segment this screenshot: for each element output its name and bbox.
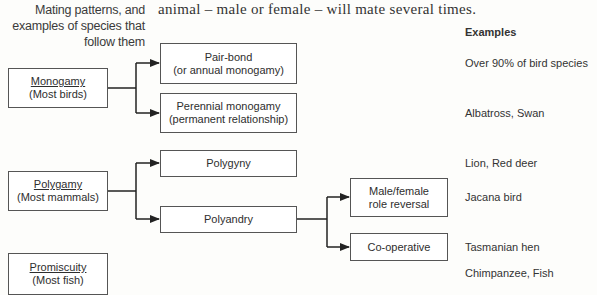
example-text: Lion, Red deer [465,157,537,169]
subtype-line: Co-operative [368,241,431,254]
category-title: Polygamy [34,178,82,191]
subtype-polyandry: Polyandry [160,206,297,233]
subtype-line: role reversal [369,198,430,211]
category-subtitle: (Most fish) [32,274,83,287]
example-text: Chimpanzee, Fish [465,267,554,279]
subtype-role-reversal: Male/female role reversal [350,178,448,217]
example-text: Jacana bird [465,191,522,203]
example-text: Tasmanian hen [465,241,540,253]
subtype-line: Polyandry [204,213,253,226]
subtype-line: (or annual monogamy) [173,64,284,77]
category-polygamy: Polygamy (Most mammals) [8,171,108,211]
subtype-line: (permanent relationship) [169,113,288,126]
category-subtitle: (Most birds) [29,88,87,101]
example-text: Over 90% of bird species [465,57,588,69]
example-text: Albatross, Swan [465,107,544,119]
category-title: Monogamy [31,75,85,88]
examples-header: Examples [465,26,516,38]
subtype-polygyny: Polygyny [160,150,297,177]
subtype-cooperative: Co-operative [350,233,448,261]
subtype-line: Male/female [369,185,429,198]
category-monogamy: Monogamy (Most birds) [8,68,108,108]
category-title: Promiscuity [30,261,87,274]
category-promiscuity: Promiscuity (Most fish) [8,253,108,295]
subtype-line: Pair-bond [205,51,253,64]
subtype-pair-bond: Pair-bond (or annual monogamy) [160,43,297,84]
subtype-line: Perennial monogamy [177,100,281,113]
subtype-perennial-monogamy: Perennial monogamy (permanent relationsh… [160,93,297,133]
category-subtitle: (Most mammals) [17,191,99,204]
subtype-line: Polygyny [206,157,251,170]
